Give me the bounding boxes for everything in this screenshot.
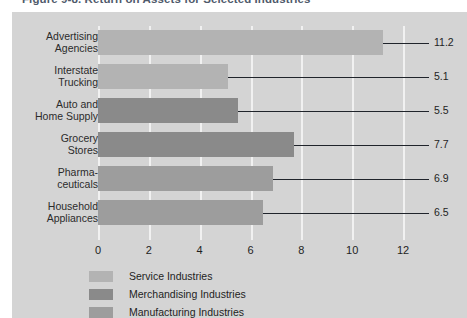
plot-area: Advertising Agencies11.2Interstate Truck… xyxy=(12,12,467,318)
bar-value-label: 5.5 xyxy=(434,104,449,116)
bar-value-label: 7.7 xyxy=(434,138,449,150)
figure-caption: Figure 9-8. Return on Assets for Selecte… xyxy=(22,0,442,7)
category-label: Auto and Home Supply xyxy=(12,99,98,122)
legend-swatch xyxy=(89,307,113,318)
x-tick-label: 4 xyxy=(197,244,203,256)
category-label: Pharma- ceuticals xyxy=(12,167,98,190)
legend-swatch xyxy=(89,289,113,300)
legend-swatch xyxy=(89,271,113,282)
value-leader-line xyxy=(383,43,429,44)
value-leader-line xyxy=(273,179,429,180)
bar-value-label: 5.1 xyxy=(434,70,449,82)
category-label: Advertising Agencies xyxy=(12,31,98,54)
bar-value-label: 6.5 xyxy=(434,206,449,218)
x-tick-label: 12 xyxy=(397,244,409,256)
value-leader-line xyxy=(238,111,429,112)
bar xyxy=(98,98,238,123)
legend-label: Service Industries xyxy=(129,269,212,284)
figure-container: Figure 9-8. Return on Assets for Selecte… xyxy=(0,0,467,318)
bar-value-label: 11.2 xyxy=(434,36,454,48)
x-tick-label: 2 xyxy=(146,244,152,256)
value-leader-line xyxy=(263,213,429,214)
category-label: Household Appliances xyxy=(12,201,98,224)
category-label: Grocery Stores xyxy=(12,133,98,156)
gridline-12 xyxy=(403,26,405,240)
gridline-10 xyxy=(352,26,354,240)
chart-panel: Advertising Agencies11.2Interstate Truck… xyxy=(12,12,467,318)
gridline-8 xyxy=(301,26,303,240)
x-tick-label: 8 xyxy=(298,244,304,256)
x-tick-label: 0 xyxy=(95,244,101,256)
bar xyxy=(98,200,263,225)
category-label: Interstate Trucking xyxy=(12,65,98,88)
bar xyxy=(98,30,383,55)
bar xyxy=(98,64,228,89)
x-tick-label: 10 xyxy=(346,244,358,256)
x-tick-label: 6 xyxy=(247,244,253,256)
legend-label: Manufacturing Industries xyxy=(129,305,244,318)
bar-value-label: 6.9 xyxy=(434,172,449,184)
bar xyxy=(98,166,273,191)
value-leader-line xyxy=(228,77,429,78)
legend-label: Merchandising Industries xyxy=(129,287,246,302)
bar xyxy=(98,132,294,157)
value-leader-line xyxy=(294,145,429,146)
